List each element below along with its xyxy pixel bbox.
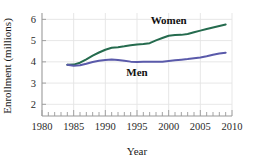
y-tick-label: 2 (31, 99, 36, 110)
y-tick-label: 5 (31, 35, 36, 46)
enrollment-line-chart: 1980198519901995200020052010 23456 Women… (0, 0, 256, 162)
y-axis-title: Enrollment (millions) (1, 18, 14, 114)
x-tick-label: 2005 (190, 121, 211, 132)
series-label-women: Women (151, 14, 187, 26)
series-label-men: Men (126, 66, 147, 78)
chart-figure: 1980198519901995200020052010 23456 Women… (0, 0, 256, 162)
x-axis-title: Year (127, 145, 148, 157)
y-tick-label: 6 (31, 14, 36, 25)
x-tick-label: 1990 (95, 121, 116, 132)
x-tick-label: 1980 (32, 121, 53, 132)
y-tick-label: 4 (31, 56, 37, 67)
x-tick-label: 2000 (158, 121, 179, 132)
x-tick-label: 2010 (222, 121, 243, 132)
y-tick-label: 3 (31, 78, 36, 89)
x-tick-label: 1985 (63, 121, 84, 132)
x-tick-label: 1995 (127, 121, 148, 132)
